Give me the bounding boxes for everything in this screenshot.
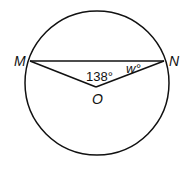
label-o: O: [92, 91, 103, 107]
w-angle-label: w°: [126, 61, 141, 76]
label-n: N: [169, 53, 180, 69]
circle-diagram: M N O 138° w°: [0, 0, 186, 169]
label-m: M: [14, 53, 26, 69]
central-angle-label: 138°: [86, 69, 113, 84]
